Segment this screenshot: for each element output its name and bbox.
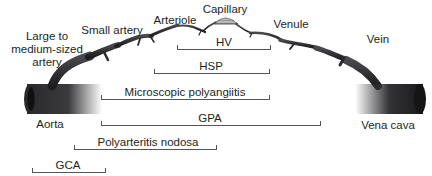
range-label: HV <box>216 36 232 49</box>
vena-cava-shape <box>355 84 426 114</box>
range-label: GCA <box>56 159 81 172</box>
label-line: medium-sized <box>0 43 97 56</box>
label-line: artery <box>0 56 97 69</box>
label-vein: Vein <box>367 33 389 46</box>
label-arteriole: Arteriole <box>154 14 197 27</box>
range-label: Microscopic polyangiitis <box>125 86 246 99</box>
label-aorta: Aorta <box>36 118 64 131</box>
label-small-artery: Small artery <box>81 24 142 37</box>
aorta-shape <box>24 84 102 114</box>
range-label: HSP <box>199 60 223 73</box>
venous-tree <box>236 24 378 86</box>
range-label: Polyarteritis nodosa <box>98 136 199 149</box>
range-label: GPA <box>198 112 221 125</box>
label-capillary: Capillary <box>203 3 248 16</box>
label-vena-cava: Vena cava <box>361 119 415 132</box>
label-venule: Venule <box>273 18 308 31</box>
capillary-bed <box>214 16 238 24</box>
